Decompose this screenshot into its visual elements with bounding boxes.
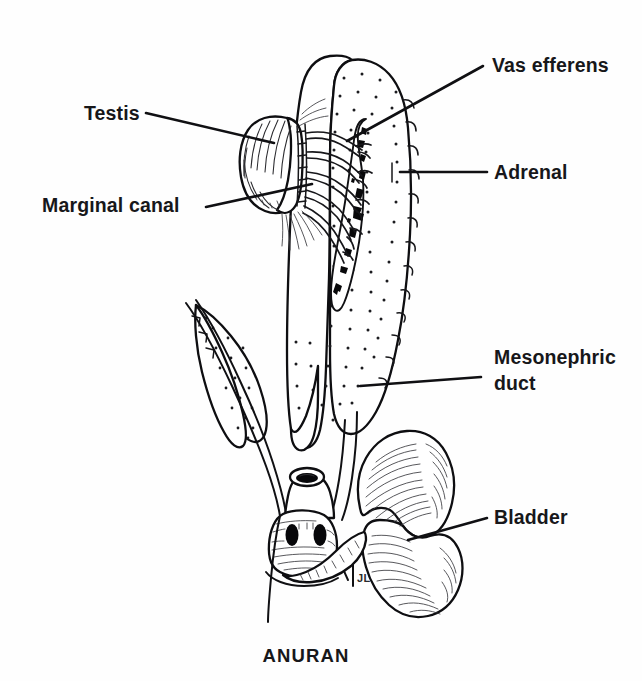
- label-bladder: Bladder: [494, 506, 568, 528]
- duct-opening-left: [286, 524, 299, 546]
- label-testis: Testis: [84, 102, 140, 124]
- label-vas-efferens: Vas efferens: [492, 54, 609, 76]
- artist-signature: JL: [357, 572, 371, 584]
- anatomical-diagram-canvas: Vas efferens Testis Adrenal Marginal can…: [0, 0, 642, 681]
- label-adrenal: Adrenal: [494, 161, 568, 183]
- anuran-urogenital-figure: Vas efferens Testis Adrenal Marginal can…: [0, 0, 642, 681]
- duct-opening-right: [314, 524, 327, 546]
- figure-caption: ANURAN: [263, 645, 350, 666]
- label-mesonephric-duct-line1: Mesonephric: [494, 346, 616, 368]
- label-marginal-canal: Marginal canal: [42, 194, 180, 216]
- label-mesonephric-duct-line2: duct: [494, 372, 536, 394]
